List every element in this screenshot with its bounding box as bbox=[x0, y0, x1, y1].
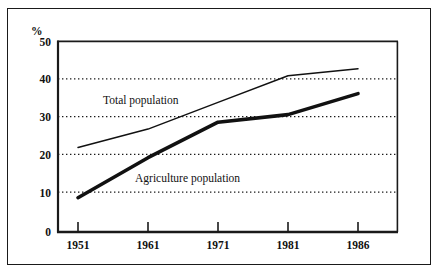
x-axis-ticks bbox=[78, 222, 358, 232]
y-tick-label-50: 50 bbox=[40, 36, 52, 48]
line-chart: % 50 40 30 20 10 0 1951 1961 1971 1981 1… bbox=[0, 0, 440, 277]
series-annotation-total-population: Total population bbox=[103, 94, 179, 107]
y-tick-label-10: 10 bbox=[40, 187, 52, 199]
x-tick-label-1961: 1961 bbox=[137, 239, 160, 251]
y-tick-label-30: 30 bbox=[40, 111, 52, 123]
x-tick-label-1951: 1951 bbox=[67, 239, 90, 251]
series-line-total-population bbox=[78, 69, 358, 148]
y-tick-label-40: 40 bbox=[40, 73, 52, 85]
y-tick-label-20: 20 bbox=[40, 149, 52, 161]
y-tick-label-0: 0 bbox=[45, 226, 51, 238]
x-axis-tick-labels: 1951 1961 1971 1981 1986 bbox=[67, 239, 370, 251]
y-axis-tick-labels: 50 40 30 20 10 0 bbox=[40, 36, 52, 238]
chart-figure: % 50 40 30 20 10 0 1951 1961 1971 1981 1… bbox=[0, 0, 440, 277]
x-tick-label-1986: 1986 bbox=[347, 239, 370, 251]
series-annotation-agriculture-population: Agriculture population bbox=[135, 172, 240, 185]
x-tick-label-1981: 1981 bbox=[277, 239, 300, 251]
x-tick-label-1971: 1971 bbox=[207, 239, 230, 251]
